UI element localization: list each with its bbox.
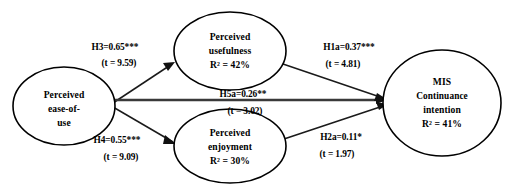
path-label-h3: H3=0.65*** (t = 9.59) (92, 42, 139, 69)
path-coefficient-label: H2a=0.11* (320, 132, 362, 142)
diagram-canvas: Perceived ease-of- use Perceived usefuln… (0, 0, 509, 191)
path-tvalue-label: (t = 3.02) (228, 106, 263, 117)
path-coefficient-label: H5a=0.26** (220, 89, 267, 99)
node-mis-continuance-intention[interactable]: MIS Continuance intention R² = 41% (383, 50, 501, 156)
path-diagram-figure: Perceived ease-of- use Perceived usefuln… (0, 0, 509, 191)
path-label-h1a: H1a=0.37*** (t = 4.81) (323, 42, 375, 70)
path-tvalue-label: (t = 9.09) (104, 152, 139, 163)
path-label-h4: H4=0.55*** (t = 9.09) (94, 135, 141, 163)
node-perceived-usefulness[interactable]: Perceived usefulness R² = 42% (174, 12, 286, 90)
node-label-line: Perceived (44, 89, 85, 100)
path-coefficient-label: H3=0.65*** (92, 42, 139, 52)
node-perceived-ease-of-use[interactable]: Perceived ease-of- use (13, 67, 115, 145)
node-label-line: Continuance (416, 91, 468, 101)
node-r-squared: R² = 41% (422, 118, 462, 129)
node-label-line: MIS (433, 76, 451, 87)
path-arrow-h1a (283, 64, 388, 101)
node-label-line: ease-of- (48, 103, 80, 114)
path-tvalue-label: (t = 1.97) (320, 149, 355, 160)
node-r-squared: R² = 42% (210, 59, 250, 70)
path-coefficient-label: H4=0.55*** (94, 135, 141, 145)
path-coefficient-label: H1a=0.37*** (323, 42, 375, 52)
node-label-line: Perceived (210, 31, 251, 42)
node-label-line: intention (423, 104, 461, 115)
node-r-squared: R² = 30% (210, 155, 250, 166)
node-label-line: Perceived (210, 127, 251, 138)
path-label-h2a: H2a=0.11* (t = 1.97) (320, 132, 363, 160)
path-tvalue-label: (t = 9.59) (102, 58, 137, 69)
path-arrow-h3 (113, 62, 175, 103)
path-tvalue-label: (t = 4.81) (326, 59, 361, 70)
path-label-h5a: H5a=0.26** (t = 3.02) (220, 89, 267, 117)
node-label-line: enjoyment (208, 141, 253, 152)
node-label-line: usefulness (209, 45, 252, 56)
node-perceived-enjoyment[interactable]: Perceived enjoyment R² = 30% (174, 109, 286, 183)
node-label-line: use (57, 117, 71, 128)
